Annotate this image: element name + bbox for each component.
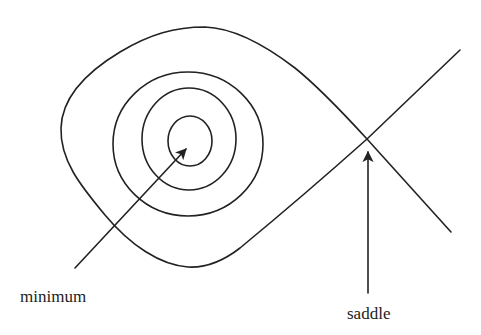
contour-ring-middle xyxy=(142,88,236,190)
contour-ring-inner xyxy=(168,116,212,166)
minimum-arrow xyxy=(75,149,186,268)
contour-ring-outer xyxy=(113,72,263,216)
saddle-label: saddle xyxy=(347,305,390,322)
minimum-label: minimum xyxy=(20,288,86,305)
contour-diagram xyxy=(0,0,481,335)
separatrix-curve xyxy=(61,27,460,267)
